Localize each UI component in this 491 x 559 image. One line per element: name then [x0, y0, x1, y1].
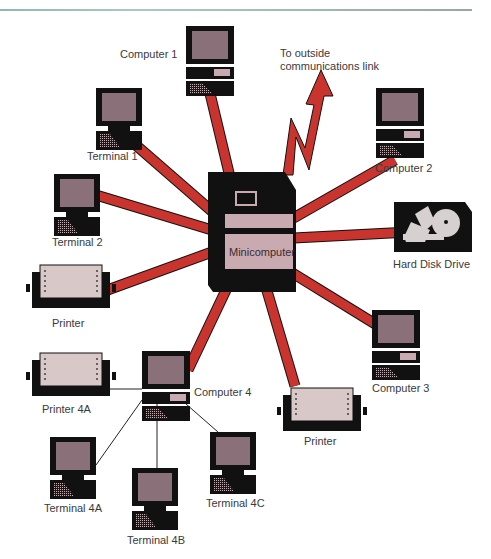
- external-link-label-2: communications link: [280, 60, 379, 73]
- terminal-2-icon: [54, 174, 100, 236]
- computer-2-icon: [376, 88, 424, 158]
- computer-4-label: Computer 4: [194, 386, 251, 399]
- terminal-4b-icon: [132, 468, 178, 530]
- computer-4-icon: [142, 351, 190, 421]
- terminal-4c-label: Terminal 4C: [206, 497, 265, 510]
- terminal-1-label: Terminal 1: [87, 150, 138, 163]
- printer-bottom-icon: [277, 388, 367, 431]
- terminal-4a-label: Terminal 4A: [44, 502, 102, 515]
- printer-left-icon: [26, 265, 116, 308]
- terminal-4b-label: Terminal 4B: [127, 534, 185, 547]
- network-diagram: [0, 0, 491, 559]
- printer-4a-icon: [26, 353, 116, 396]
- computer-3-label: Computer 3: [372, 382, 429, 395]
- lightning-arrow-icon: [283, 70, 333, 175]
- terminal-2-label: Terminal 2: [52, 236, 103, 249]
- printer-4a-label: Printer 4A: [42, 403, 91, 416]
- printer-bottom-label: Printer: [304, 435, 336, 448]
- hard-disk-label: Hard Disk Drive: [393, 258, 470, 271]
- terminal-1-icon: [96, 88, 142, 150]
- computer-2-label: Computer 2: [375, 162, 432, 175]
- computer-1-label: Computer 1: [120, 48, 177, 61]
- terminal-4a-icon: [50, 437, 96, 499]
- minicomputer-label: Minicomputer: [226, 246, 298, 258]
- terminal-4c-icon: [210, 432, 256, 494]
- minicomputer-icon: [208, 172, 296, 292]
- computer-1-icon: [186, 26, 234, 96]
- computer-3-icon: [372, 310, 420, 380]
- hard-disk-icon: [394, 202, 472, 252]
- printer-left-label: Printer: [52, 317, 84, 330]
- external-link-label-1: To outside: [280, 47, 330, 60]
